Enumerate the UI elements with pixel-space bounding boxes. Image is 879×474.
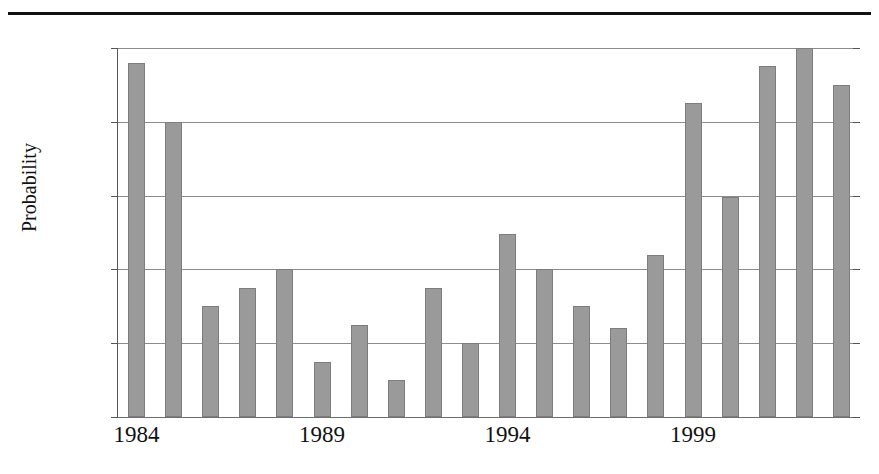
top-horizontal-rule <box>8 12 871 15</box>
x-tick-label: 1999 <box>670 422 716 448</box>
right-tick-marks-group <box>118 48 860 417</box>
bar <box>573 306 590 417</box>
bar <box>685 103 702 417</box>
bar <box>499 234 516 417</box>
bar <box>128 63 145 417</box>
chart-figure: Probability 20%16%12%8%4%0% 198419891994… <box>0 0 879 474</box>
plot-area <box>118 48 860 417</box>
gridline-8 <box>118 269 860 270</box>
gridline-16 <box>118 122 860 123</box>
y-axis-title: Probability <box>18 143 41 232</box>
bar <box>796 48 813 417</box>
bar <box>165 122 182 417</box>
y-tick-mark-4 <box>111 343 118 344</box>
gridline-4 <box>118 343 860 344</box>
y-tick-mark-0 <box>111 417 118 418</box>
bar <box>647 255 664 417</box>
bar <box>314 362 331 417</box>
bar <box>239 288 256 417</box>
x-tick-label: 1994 <box>485 422 531 448</box>
y-tick-mark-12 <box>111 196 118 197</box>
bar <box>833 85 850 417</box>
x-tick-label: 1989 <box>299 422 345 448</box>
bar <box>722 197 739 417</box>
y-tick-mark-8 <box>111 269 118 270</box>
gridline-20 <box>118 48 860 49</box>
bar <box>388 380 405 417</box>
bar <box>425 288 442 417</box>
gridline-0 <box>118 417 860 418</box>
bar <box>351 325 368 417</box>
y-tick-mark-20 <box>111 48 118 49</box>
bar <box>610 328 627 417</box>
bar <box>536 269 553 417</box>
y-tick-mark-16 <box>111 122 118 123</box>
gridline-12 <box>118 196 860 197</box>
bar <box>462 343 479 417</box>
x-tick-label: 1984 <box>114 422 160 448</box>
bar <box>276 269 293 417</box>
bar <box>202 306 219 417</box>
bar <box>759 66 776 417</box>
